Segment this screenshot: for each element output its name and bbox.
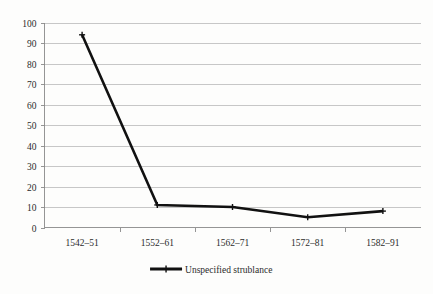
y-tick-label-70: 70	[27, 80, 37, 90]
data-series-group	[79, 32, 386, 220]
x-tick-label-1: 1552–61	[141, 238, 175, 248]
x-tick-label-4: 1582–91	[366, 238, 400, 248]
x-tick-label-2: 1562–71	[216, 238, 250, 248]
y-tick-label-10: 10	[27, 203, 37, 213]
chart-legend: Unspecified strublance	[150, 265, 272, 275]
data-point-4	[380, 208, 386, 214]
x-tick-mark-group	[121, 228, 346, 232]
line-chart: 0102030405060708090100 1542–511552–61156…	[0, 0, 433, 294]
y-tick-label-100: 100	[22, 19, 37, 29]
legend-label-0: Unspecified strublance	[185, 265, 272, 275]
y-tick-mark-group	[41, 24, 45, 229]
data-point-2	[230, 204, 236, 210]
y-tick-label-60: 60	[27, 101, 37, 111]
y-tick-label-80: 80	[27, 60, 37, 70]
y-tick-label-90: 90	[27, 39, 37, 49]
y-tick-label-30: 30	[27, 162, 37, 172]
y-tick-label-20: 20	[27, 183, 37, 193]
chart-figure: 0102030405060708090100 1542–511552–61156…	[0, 0, 433, 294]
x-tick-label-0: 1542–51	[65, 238, 99, 248]
x-axis-tick-labels: 1542–511552–611562–711572–811582–91	[65, 238, 399, 248]
gridline-group	[45, 24, 421, 208]
data-point-3	[305, 214, 311, 220]
x-tick-label-3: 1572–81	[291, 238, 325, 248]
y-tick-label-50: 50	[27, 121, 37, 131]
y-axis-tick-labels: 0102030405060708090100	[22, 19, 37, 234]
y-tick-label-0: 0	[32, 224, 37, 234]
y-tick-label-40: 40	[27, 142, 37, 152]
series-line-0	[82, 35, 383, 217]
